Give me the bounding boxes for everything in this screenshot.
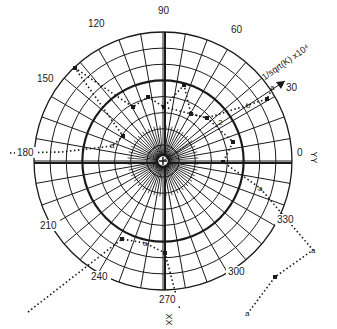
xx-axis-label: XX xyxy=(164,313,173,325)
angle-label: 0 xyxy=(297,147,303,158)
data-point-marker xyxy=(163,251,167,255)
angle-label: 300 xyxy=(228,266,245,277)
data-point-marker xyxy=(73,66,77,70)
arrowhead-icon xyxy=(276,81,285,89)
point-label: 2 xyxy=(218,118,223,127)
angle-label: 60 xyxy=(231,24,243,35)
point-label: a xyxy=(270,83,275,92)
radial-arrow-line xyxy=(163,81,285,161)
data-point-marker xyxy=(221,160,225,164)
yy-axis-label: YY xyxy=(309,151,318,163)
data-point-marker xyxy=(120,237,124,241)
point-label: a xyxy=(143,239,148,248)
data-point-marker xyxy=(273,275,277,279)
data-point-marker xyxy=(189,112,193,116)
point-label: a xyxy=(311,246,316,255)
data-point-marker xyxy=(146,95,150,99)
angle-label: 180 xyxy=(17,147,34,158)
angle-label: 120 xyxy=(88,18,105,29)
angle-label: 210 xyxy=(40,220,57,231)
data-point-marker xyxy=(265,97,269,101)
angle-label: 240 xyxy=(91,271,108,282)
data-point-marker xyxy=(131,105,135,109)
data-point-marker xyxy=(121,134,125,138)
angle-label: 150 xyxy=(37,73,54,84)
data-point-marker xyxy=(205,116,209,120)
data-point-marker xyxy=(162,105,166,109)
angle-label: 270 xyxy=(159,294,176,305)
data-point-marker xyxy=(182,83,186,87)
angle-label: 330 xyxy=(277,214,294,225)
point-label: a xyxy=(245,309,250,318)
angle-label: 30 xyxy=(286,82,298,93)
angle-label: 90 xyxy=(158,5,170,16)
point-label: a xyxy=(110,141,115,150)
data-point-marker xyxy=(231,140,235,144)
polar-diagram: a2baaaaa 0306090120150180210240270300330 xyxy=(0,0,337,329)
point-label: b xyxy=(246,101,251,110)
point-label: a xyxy=(258,184,263,193)
